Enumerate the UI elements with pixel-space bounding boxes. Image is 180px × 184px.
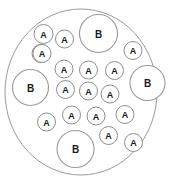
circle-label: A [130, 46, 137, 56]
circle-label: A [62, 85, 69, 95]
circle-label: A [111, 66, 118, 76]
circle-label: A [39, 49, 46, 59]
circle-label: B [72, 144, 79, 155]
circle-packing-diagram: BBBBAAAAAAAAAAAAAAAAA [0, 0, 180, 184]
packed-circle-a-17: A [100, 127, 118, 145]
circle-label: A [85, 66, 92, 76]
packed-circle-a-9: A [106, 62, 124, 80]
packed-circle-a-11: A [80, 82, 98, 100]
packed-circle-a-6: A [124, 42, 142, 60]
packed-circle-a-20: A [34, 25, 53, 44]
packed-circle-b-1: B [13, 70, 49, 106]
packed-circle-b-0: B [80, 15, 118, 53]
packed-circle-a-18: A [125, 134, 143, 152]
packing-canvas: BBBBAAAAAAAAAAAAAAAAA [0, 0, 180, 184]
circle-label: B [27, 83, 34, 94]
packed-circle-a-8: A [80, 61, 98, 79]
circle-label: A [93, 112, 100, 122]
packed-circle-a-13: A [63, 106, 81, 124]
circle-label: A [61, 65, 68, 75]
circle-label: A [122, 110, 129, 120]
packed-circle-a-10: A [57, 81, 75, 99]
packed-circle-a-19: A [33, 45, 51, 63]
packed-circle-b-3: B [57, 131, 94, 168]
packed-circle-b-2: B [130, 66, 165, 101]
circle-label: A [43, 118, 50, 128]
circle-label: A [130, 138, 137, 148]
circle-label: A [85, 87, 92, 97]
packed-circle-a-7: A [55, 60, 73, 78]
packed-circle-a-4: A [56, 30, 74, 48]
circle-label: A [40, 30, 47, 40]
packed-circle-a-12: A [101, 85, 119, 103]
circle-label: A [107, 90, 114, 100]
circle-label: B [144, 78, 151, 89]
packed-circle-a-16: A [38, 113, 56, 131]
circle-label: A [61, 35, 68, 45]
packed-circle-a-14: A [87, 107, 105, 125]
packed-circle-a-15: A [116, 106, 134, 124]
circle-label: A [105, 131, 112, 141]
circle-label: A [68, 111, 75, 121]
circle-label: B [95, 29, 102, 40]
